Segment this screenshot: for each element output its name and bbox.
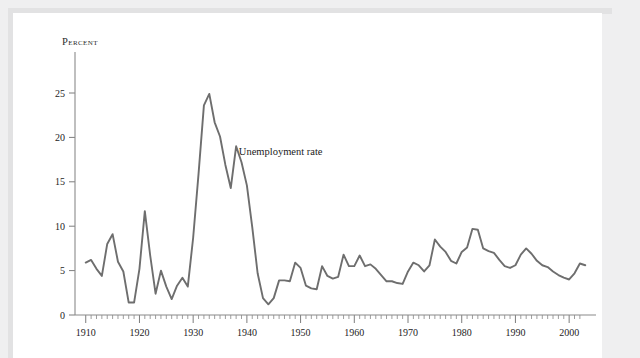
y-tick-label: 15 [55,176,65,187]
x-tick-label: 2000 [559,327,579,338]
x-axis-minor-ticks [91,315,580,319]
x-tick-label: 1930 [183,327,203,338]
x-tick-label: 1980 [452,327,472,338]
figure-stage: Percent 0510152025 191019201930194019501… [0,0,640,358]
unemployment-rate-chart: Percent 0510152025 191019201930194019501… [0,0,640,358]
y-tick-label: 20 [55,132,65,143]
unemployment-rate-line [86,94,586,304]
x-tick-label: 1940 [237,327,257,338]
x-tick-label: 1970 [398,327,418,338]
chart-svg: Percent 0510152025 191019201930194019501… [0,0,640,358]
y-tick-label: 25 [55,88,65,99]
y-tick-label: 10 [55,221,65,232]
x-tick-label: 1910 [76,327,96,338]
y-tick-label: 0 [60,310,65,321]
x-tick-label: 1920 [129,327,149,338]
x-tick-label: 1960 [344,327,364,338]
y-tick-label: 5 [60,265,65,276]
y-axis-ticks: 0510152025 [55,88,75,321]
series-annotation-label: Unemployment rate [239,146,323,157]
x-tick-label: 1990 [505,327,525,338]
y-axis-caption: Percent [62,36,98,47]
x-tick-label: 1950 [291,327,311,338]
